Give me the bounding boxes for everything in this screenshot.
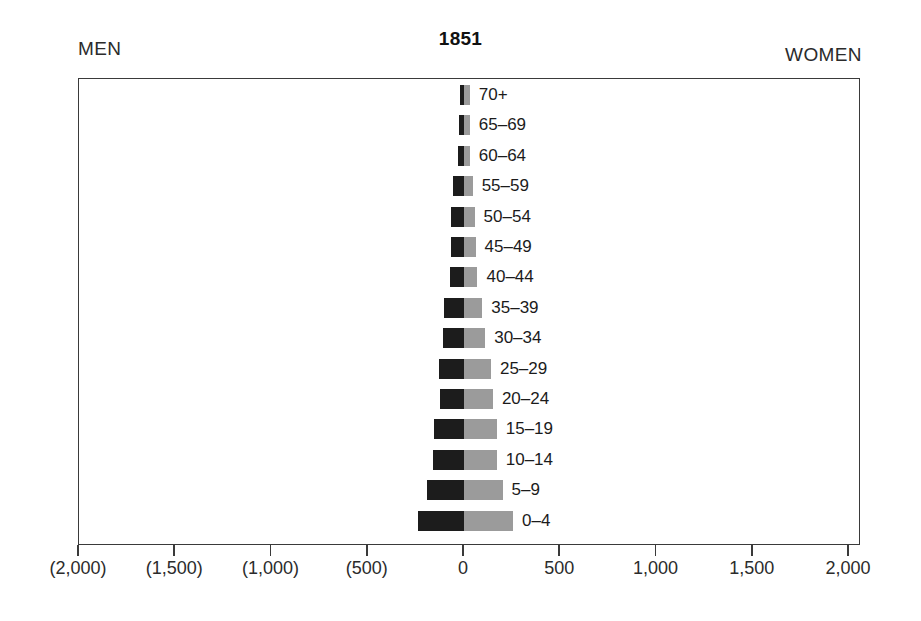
age-group-label: 0–4 xyxy=(522,510,550,531)
bar-women xyxy=(464,298,482,318)
bar-row: 50–54 xyxy=(79,205,859,229)
page-title: 1851 xyxy=(0,28,921,50)
bar-men xyxy=(444,298,464,318)
axis-tick-label: 1,500 xyxy=(729,558,774,579)
axis-tick-label: 500 xyxy=(544,558,574,579)
bar-row: 55–59 xyxy=(79,174,859,198)
age-group-label: 25–29 xyxy=(500,358,547,379)
bar-men xyxy=(453,176,464,196)
axis-tick xyxy=(462,545,464,556)
age-group-label: 35–39 xyxy=(491,297,538,318)
bar-men xyxy=(433,450,464,470)
axis-tick xyxy=(366,545,368,556)
bar-women xyxy=(464,419,497,439)
age-group-label: 45–49 xyxy=(485,236,532,257)
axis-tick xyxy=(751,545,753,556)
axis-tick xyxy=(77,545,79,556)
bar-women xyxy=(464,237,476,257)
age-group-label: 70+ xyxy=(479,84,508,105)
bar-women xyxy=(464,511,513,531)
axis-tick xyxy=(558,545,560,556)
bar-men xyxy=(439,359,464,379)
bar-row: 45–49 xyxy=(79,235,859,259)
bars-layer: 70+65–6960–6455–5950–5445–4940–4435–3930… xyxy=(79,79,859,544)
axis-tick-label: 0 xyxy=(458,558,468,579)
bar-row: 30–34 xyxy=(79,326,859,350)
bar-row: 5–9 xyxy=(79,478,859,502)
bar-women xyxy=(464,207,475,227)
bar-women xyxy=(464,267,477,287)
bar-row: 65–69 xyxy=(79,113,859,137)
bar-row: 25–29 xyxy=(79,357,859,381)
axis-tick xyxy=(847,545,849,556)
women-axis-label: WOMEN xyxy=(785,44,862,66)
bar-row: 35–39 xyxy=(79,296,859,320)
plot-frame: 70+65–6960–6455–5950–5445–4940–4435–3930… xyxy=(78,78,860,545)
age-group-label: 55–59 xyxy=(482,175,529,196)
age-group-label: 30–34 xyxy=(494,327,541,348)
age-group-label: 15–19 xyxy=(506,418,553,439)
bar-row: 15–19 xyxy=(79,417,859,441)
bar-women xyxy=(464,359,491,379)
bar-women xyxy=(464,480,503,500)
bar-row: 0–4 xyxy=(79,509,859,533)
axis-tick-label: (2,000) xyxy=(49,558,106,579)
axis-tick-label: 2,000 xyxy=(825,558,870,579)
age-group-label: 60–64 xyxy=(479,145,526,166)
bar-row: 20–24 xyxy=(79,387,859,411)
bar-men xyxy=(451,237,464,257)
population-pyramid-chart: MEN 1851 WOMEN 70+65–6960–6455–5950–5445… xyxy=(0,0,921,621)
axis-tick-label: (1,500) xyxy=(146,558,203,579)
age-group-label: 50–54 xyxy=(484,206,531,227)
bar-women xyxy=(464,328,485,348)
bar-men xyxy=(451,207,464,227)
age-group-label: 40–44 xyxy=(486,266,533,287)
bar-men xyxy=(443,328,464,348)
bar-women xyxy=(464,450,497,470)
bar-row: 60–64 xyxy=(79,144,859,168)
bar-row: 40–44 xyxy=(79,265,859,289)
bar-men xyxy=(440,389,464,409)
bar-women xyxy=(464,146,470,166)
bar-row: 10–14 xyxy=(79,448,859,472)
axis-tick-label: 1,000 xyxy=(633,558,678,579)
bar-men xyxy=(418,511,464,531)
bar-row: 70+ xyxy=(79,83,859,107)
bar-women xyxy=(464,176,473,196)
age-group-label: 65–69 xyxy=(479,114,526,135)
axis-tick-label: (500) xyxy=(346,558,388,579)
bar-men xyxy=(434,419,464,439)
bar-women xyxy=(464,115,470,135)
age-group-label: 5–9 xyxy=(512,479,540,500)
bar-women xyxy=(464,389,493,409)
age-group-label: 20–24 xyxy=(502,388,549,409)
bar-men xyxy=(427,480,464,500)
axis-tick xyxy=(655,545,657,556)
bar-women xyxy=(464,85,470,105)
age-group-label: 10–14 xyxy=(506,449,553,470)
axis-tick xyxy=(270,545,272,556)
bar-men xyxy=(450,267,464,287)
axis-tick-label: (1,000) xyxy=(242,558,299,579)
axis-tick xyxy=(173,545,175,556)
